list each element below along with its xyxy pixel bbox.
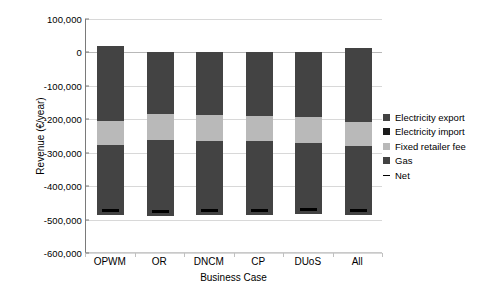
x-axis-tick-label: All — [352, 256, 363, 267]
plot-area — [85, 19, 382, 253]
x-axis-tick-mark — [135, 253, 136, 257]
y-axis-tick-label: -400,000 — [44, 181, 82, 192]
bar-segment-gas — [97, 145, 124, 215]
legend-swatch-icon — [383, 157, 390, 164]
x-axis-tick-label: DUoS — [294, 256, 321, 267]
bar-segment-fixed-retailer-fee — [345, 122, 372, 146]
legend-item[interactable]: Net — [383, 168, 466, 183]
x-axis-tick-mark — [234, 253, 235, 257]
net-marker — [201, 209, 218, 212]
net-marker — [251, 209, 268, 212]
legend-item[interactable]: Fixed retailer fee — [383, 139, 466, 154]
legend-item-label: Fixed retailer fee — [395, 141, 466, 152]
bar-segment-gas — [295, 143, 322, 214]
gridline — [86, 19, 382, 20]
bar-segment-gas — [147, 140, 174, 215]
x-axis-tick-mark — [85, 253, 86, 257]
y-axis-tick-label: 100,000 — [47, 14, 82, 25]
bar-segment-fixed-retailer-fee — [97, 121, 124, 145]
legend-swatch-icon — [383, 143, 390, 150]
y-axis-tick-mark — [85, 85, 89, 86]
y-axis-tick-label: -300,000 — [44, 147, 82, 158]
y-axis-tick-label: -100,000 — [44, 80, 82, 91]
legend-item[interactable]: Electricity export — [383, 110, 466, 125]
gridline — [86, 220, 382, 221]
net-marker — [350, 209, 367, 212]
x-axis-tick-label: DNCM — [194, 256, 224, 267]
x-axis-tick-label: CP — [251, 256, 265, 267]
x-axis-tick-mark — [333, 253, 334, 257]
x-axis-tick-label: OR — [152, 256, 167, 267]
gridline — [86, 153, 382, 154]
bar-segment-fixed-retailer-fee — [246, 116, 273, 141]
y-axis-tick-label: -600,000 — [44, 248, 82, 259]
bar-segment-fixed-retailer-fee — [295, 117, 322, 143]
gridline — [86, 119, 382, 120]
bar-segment-fixed-retailer-fee — [196, 115, 223, 141]
bar-segment-gas — [246, 141, 273, 215]
net-marker — [152, 210, 169, 213]
x-axis-tick-mark — [283, 253, 284, 257]
legend-item-label: Electricity import — [395, 126, 465, 137]
bar-segment-electricity-export — [196, 52, 223, 115]
gridline — [86, 186, 382, 187]
bar-segment-gas — [196, 141, 223, 215]
legend-dash-icon — [383, 172, 390, 179]
bar-segment-electricity-export — [295, 52, 322, 117]
x-axis-title: Business Case — [85, 272, 382, 283]
legend-item[interactable]: Gas — [383, 154, 466, 169]
y-axis-tick-mark — [85, 186, 89, 187]
y-axis-tick-mark — [85, 19, 89, 20]
gridline — [86, 86, 382, 87]
y-axis-tick-label: -200,000 — [44, 114, 82, 125]
x-axis-tick-mark — [184, 253, 185, 257]
bar-segment-electricity-export — [345, 52, 372, 122]
bar-segment-electricity-export — [147, 52, 174, 114]
y-axis-tick-mark — [85, 119, 89, 120]
legend-swatch-icon — [383, 114, 390, 121]
y-axis-tick-label: 0 — [77, 47, 82, 58]
y-axis-tick-mark — [85, 152, 89, 153]
bar-segment-electricity-export — [246, 52, 273, 116]
legend-swatch-icon — [383, 128, 390, 135]
chart-legend: Electricity exportElectricity importFixe… — [383, 110, 466, 183]
stacked-bar-chart: Revenue (€/year) 100,0000-100,000-200,00… — [0, 0, 479, 300]
y-axis-labels: 100,0000-100,000-200,000-300,000-400,000… — [0, 0, 82, 300]
legend-item-label: Gas — [395, 155, 412, 166]
x-axis-tick-mark — [382, 253, 383, 257]
net-marker — [300, 208, 317, 211]
bar-segment-fixed-retailer-fee — [147, 114, 174, 140]
y-axis-tick-label: -500,000 — [44, 214, 82, 225]
net-marker — [102, 209, 119, 212]
legend-item-label: Electricity export — [395, 112, 465, 123]
x-axis-tick-label: OPWM — [94, 256, 126, 267]
y-axis-tick-mark — [85, 52, 89, 53]
gridline — [86, 52, 382, 53]
bar-segment-gas — [345, 146, 372, 215]
y-axis-tick-mark — [85, 219, 89, 220]
legend-item[interactable]: Electricity import — [383, 125, 466, 140]
legend-item-label: Net — [395, 170, 410, 181]
bar-segment-electricity-export — [97, 52, 124, 121]
